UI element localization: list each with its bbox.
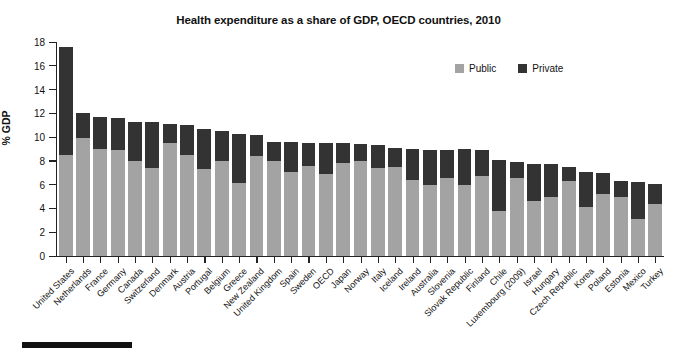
bar-segment-private [631, 182, 645, 219]
bar-segment-public [128, 161, 142, 256]
x-tick-mark [586, 257, 587, 263]
y-tick-label: 16 [23, 60, 45, 71]
bar-column [128, 122, 142, 256]
y-tick-mark [49, 89, 56, 90]
x-tick-mark [395, 257, 396, 263]
y-axis-title: % GDP [0, 110, 12, 145]
y-tick-mark [49, 160, 56, 161]
bar-segment-private [579, 172, 593, 208]
y-tick-mark [49, 137, 56, 138]
legend-swatch [518, 64, 527, 73]
y-tick-mark [49, 42, 56, 43]
x-tick-mark [274, 257, 275, 263]
bar-segment-private [614, 181, 628, 196]
bar-segment-public [76, 138, 90, 256]
x-tick-mark [308, 257, 309, 263]
legend-label: Public [469, 63, 496, 74]
bar-series-container [57, 42, 664, 256]
bar-segment-private [267, 142, 281, 161]
y-tick-mark [49, 65, 56, 66]
bar-column [76, 113, 90, 256]
y-tick-mark [49, 184, 56, 185]
bar-segment-private [527, 164, 541, 201]
bar-segment-private [648, 184, 662, 204]
bar-column [302, 143, 316, 256]
bar-segment-private [180, 125, 194, 155]
bar-segment-public [492, 211, 506, 256]
bar-column [631, 182, 645, 256]
bar-column [93, 117, 107, 256]
bar-segment-private [250, 135, 264, 156]
x-tick-mark [361, 257, 362, 263]
bar-column [284, 142, 298, 256]
y-tick-label: 8 [23, 155, 45, 166]
x-tick-mark [655, 257, 656, 263]
bar-segment-private [596, 173, 610, 194]
bar-segment-public [163, 143, 177, 256]
bar-segment-public [319, 174, 333, 256]
chart-legend: PublicPrivate [455, 63, 563, 74]
bar-segment-public [510, 178, 524, 256]
bar-segment-private [197, 129, 211, 169]
plot-area [57, 42, 664, 256]
x-tick-mark [135, 257, 136, 263]
x-tick-mark [152, 257, 153, 263]
x-tick-mark [517, 257, 518, 263]
legend-item: Public [455, 63, 496, 74]
x-tick-mark [100, 257, 101, 263]
bar-segment-private [163, 124, 177, 143]
x-tick-mark [482, 257, 483, 263]
y-tick-label: 2 [23, 227, 45, 238]
bar-column [250, 135, 264, 256]
bar-segment-public [579, 207, 593, 256]
bar-segment-public [302, 166, 316, 256]
x-tick-mark [239, 257, 240, 263]
x-tick-mark [621, 257, 622, 263]
bar-column [423, 150, 437, 256]
x-tick-mark [204, 257, 205, 263]
bar-segment-public [406, 180, 420, 256]
x-tick-mark [378, 257, 379, 263]
bar-column [197, 129, 211, 256]
x-tick-mark [413, 257, 414, 263]
bar-column [475, 150, 489, 256]
bar-segment-private [354, 144, 368, 161]
bar-segment-private [319, 143, 333, 174]
bar-segment-private [406, 149, 420, 180]
bar-segment-public [284, 172, 298, 256]
bar-segment-private [111, 118, 125, 150]
y-tick-mark [49, 256, 56, 257]
bar-segment-private [544, 164, 558, 196]
x-tick-mark [170, 257, 171, 263]
health-expenditure-chart: Health expenditure as a share of GDP, OE… [0, 0, 677, 356]
bar-column [232, 134, 246, 256]
bar-column [406, 149, 420, 256]
bar-segment-private [371, 145, 385, 168]
x-tick-mark [291, 257, 292, 263]
bar-column [354, 144, 368, 256]
bar-segment-public [631, 219, 645, 256]
bar-column [163, 124, 177, 256]
y-tick-label: 18 [23, 37, 45, 48]
bar-segment-public [180, 155, 194, 256]
bar-segment-private [145, 122, 159, 168]
x-tick-mark [603, 257, 604, 263]
bar-column [648, 183, 662, 256]
x-tick-mark [551, 257, 552, 263]
bar-column [371, 145, 385, 256]
bar-segment-public [59, 155, 73, 256]
bar-segment-public [93, 149, 107, 256]
bar-segment-private [336, 143, 350, 163]
bar-segment-private [562, 167, 576, 181]
bar-segment-public [596, 194, 610, 256]
y-tick-label: 12 [23, 108, 45, 119]
x-tick-mark [66, 257, 67, 263]
bar-column [562, 167, 576, 256]
bar-segment-private [388, 148, 402, 167]
bar-segment-public [527, 201, 541, 256]
bar-segment-public [371, 168, 385, 256]
bar-segment-public [648, 204, 662, 256]
y-tick-label: 10 [23, 132, 45, 143]
bar-segment-private [302, 143, 316, 166]
bar-column [111, 118, 125, 256]
